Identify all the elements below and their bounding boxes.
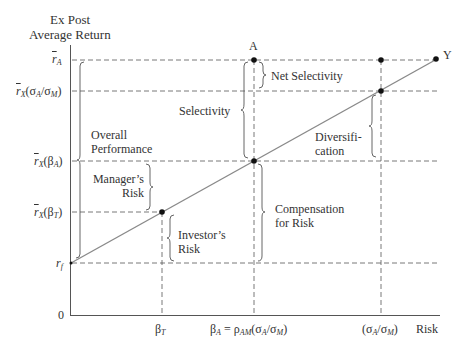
y-tick-r-x-sigma: rX(σA/σM) — [16, 84, 61, 102]
x-axis-title: Risk — [416, 322, 438, 336]
y-axis-title-line2: Average Return — [29, 28, 111, 42]
diagram-canvas — [0, 0, 464, 351]
diversification-label: Diversifi- cation — [315, 130, 362, 158]
y-tick-r-x-beta-t: rX(βT) — [34, 205, 62, 223]
managers-risk-label: Manager’s Risk — [88, 172, 144, 200]
point-a — [251, 57, 257, 63]
x-tick-beta-a: βA = ρAM(σA/σM) — [210, 322, 287, 340]
y-tick-r-f: rf — [56, 256, 63, 274]
brace-managers-risk — [146, 164, 153, 210]
brace-net-selectivity — [259, 62, 266, 88]
origin-label: 0 — [58, 308, 64, 322]
investors-risk-label: Investor’s Risk — [178, 228, 226, 256]
point-y-label: Y — [443, 48, 452, 62]
selectivity-label: Selectivity — [179, 104, 230, 118]
net-selectivity-label: Net Selectivity — [271, 69, 343, 83]
x-tick-beta-t: βT — [155, 322, 166, 340]
vertical-guides — [162, 60, 381, 314]
brace-investors-risk — [167, 215, 174, 261]
x-tick-sigma-ratio: (σA/σM) — [362, 322, 398, 340]
brace-compensation — [258, 164, 265, 261]
point-rf — [70, 262, 73, 265]
compensation-label: Compensation for Risk — [275, 202, 344, 230]
braces — [76, 62, 376, 261]
overall-performance-label: Overall Performance — [91, 128, 152, 156]
point-a-label: A — [249, 39, 258, 53]
point-beta-a — [251, 158, 257, 164]
y-tick-r-a: rA — [52, 52, 62, 70]
point-a-sigma — [378, 57, 384, 63]
point-y — [433, 56, 439, 62]
brace-diversification — [369, 95, 376, 157]
point-beta-t — [159, 209, 165, 215]
brace-selectivity — [241, 62, 248, 158]
y-tick-r-x-beta-a: rX(βA) — [34, 154, 63, 172]
y-axis-title-line1: Ex Post — [50, 13, 90, 27]
point-sigma-line — [378, 88, 384, 94]
